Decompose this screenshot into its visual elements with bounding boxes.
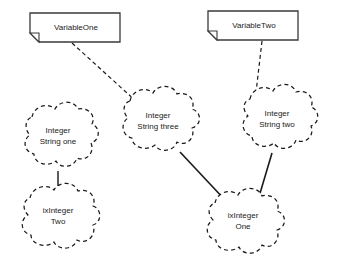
cloud-ix-integer-one-outline — [207, 188, 284, 253]
diagram-canvas: VariableOne VariableTwo Integer String o… — [0, 0, 338, 270]
diagram-svg: VariableOne VariableTwo Integer String o… — [0, 0, 338, 270]
connector-variable-one-to-string-three — [72, 43, 138, 103]
cloud-ix-integer-one-line1: ixInteger — [228, 211, 259, 220]
note-variable-two-fold-icon — [208, 31, 217, 40]
cloud-integer-string-two-line2: String two — [259, 120, 295, 129]
cloud-ix-integer-two[interactable]: ixInteger Two — [22, 183, 99, 248]
cloud-integer-string-three[interactable]: Integer String three — [123, 86, 199, 150]
cloud-ix-integer-two-outline — [22, 183, 99, 248]
cloud-integer-string-one[interactable]: Integer String one — [25, 102, 98, 166]
note-variable-one-fold-icon — [30, 33, 39, 42]
connector-string-three-to-ix-integer-one — [180, 152, 225, 200]
note-variable-one[interactable]: VariableOne — [30, 13, 120, 42]
note-variable-two[interactable]: VariableTwo — [208, 11, 298, 40]
cloud-integer-string-two-line1: Integer — [265, 109, 290, 118]
cloud-ix-integer-one-line2: One — [235, 222, 251, 231]
cloud-ix-integer-two-line1: ixInteger — [43, 206, 74, 215]
cloud-integer-string-one-line2: String one — [40, 137, 77, 146]
note-variable-one-label: VariableOne — [54, 23, 98, 32]
cloud-ix-integer-one[interactable]: ixInteger One — [207, 188, 284, 253]
cloud-integer-string-two[interactable]: Integer String two — [243, 84, 318, 148]
cloud-integer-string-three-line1: Integer — [146, 111, 171, 120]
cloud-ix-integer-two-line2: Two — [51, 217, 66, 226]
note-variable-two-label: VariableTwo — [232, 21, 276, 30]
cloud-integer-string-three-line2: String three — [137, 122, 179, 131]
cloud-integer-string-one-line1: Integer — [46, 126, 71, 135]
